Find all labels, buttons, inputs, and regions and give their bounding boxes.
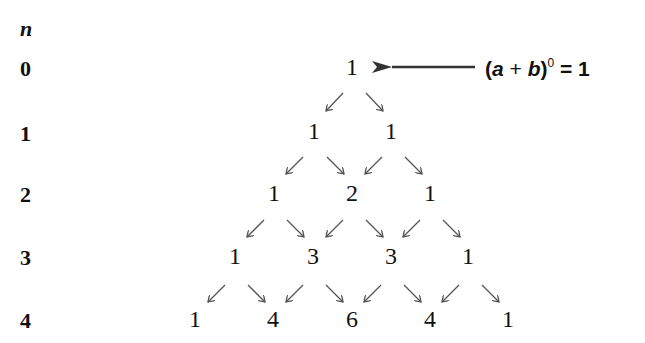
arrows-layer [0, 0, 645, 343]
var-a: a [492, 57, 504, 80]
binomial-annotation: (a + b)0 = 1 [485, 56, 590, 81]
equals-result: = 1 [554, 57, 590, 80]
var-b: b [528, 57, 541, 80]
plus-sign: + [504, 57, 528, 80]
paren-open: ( [485, 57, 492, 80]
